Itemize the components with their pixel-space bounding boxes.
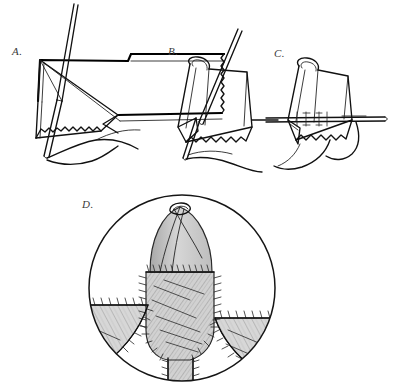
needle-shaft-left-b xyxy=(199,29,238,122)
suture-thread-tail-a xyxy=(96,130,140,140)
panel-b-group xyxy=(178,29,278,172)
panel-d-group xyxy=(60,195,305,382)
figure-container: A. B. C. D. xyxy=(0,0,402,382)
suture-thread-upper-a xyxy=(47,139,138,158)
tissue-left-lower-a xyxy=(36,101,38,138)
suture-thread-2-c xyxy=(274,140,330,169)
panel-label-a: A. xyxy=(12,45,22,57)
fold-loop-outer-c xyxy=(298,58,319,70)
needle-shaft-bottom-c xyxy=(266,121,385,122)
tissue-left-inner-a xyxy=(42,63,44,102)
panel-c-group xyxy=(266,58,388,169)
needle-tip-c xyxy=(385,117,388,121)
panel-label-b: B. xyxy=(168,45,178,57)
tissue-inner-right-b xyxy=(244,72,247,126)
needle-shaft-right-b xyxy=(203,31,242,124)
tissue-inner-right-c xyxy=(344,76,348,119)
flap-inner-a xyxy=(44,63,120,121)
needle-shaft-left-a xyxy=(57,4,74,100)
fold-loop-inner-c xyxy=(301,62,316,71)
suture-thread-b xyxy=(186,158,262,172)
stitch-markers-c xyxy=(297,112,327,126)
rect-bottom-inner-a xyxy=(120,119,222,121)
tissue-left-inner-lower-a xyxy=(40,102,42,138)
panel-d-contents xyxy=(60,195,305,382)
suture-thread-2-b xyxy=(188,151,232,155)
needle-shaft-top-c xyxy=(266,117,385,118)
panel-label-c: C. xyxy=(274,47,285,59)
panel-label-d: D. xyxy=(82,198,94,210)
suture-thread-3-c xyxy=(278,144,300,166)
tissue-outline-b xyxy=(178,64,252,142)
tissue-fold-line-c xyxy=(314,70,318,122)
suture-thread-lower-a xyxy=(47,146,118,164)
panel-a-drawing xyxy=(0,0,402,382)
tissue-outline-c xyxy=(288,66,352,140)
